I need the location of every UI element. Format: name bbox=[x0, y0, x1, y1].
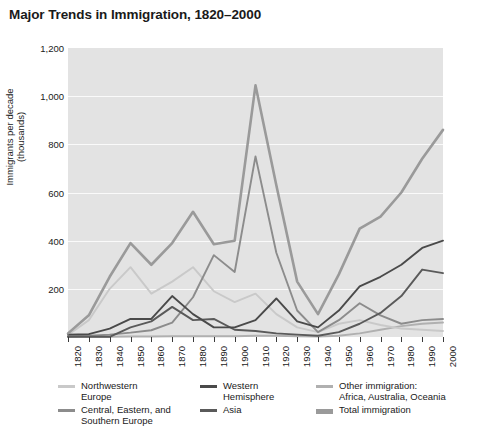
x-axis-tick bbox=[422, 337, 423, 342]
legend-swatch bbox=[58, 409, 75, 412]
x-axis-tick-label: 1930 bbox=[301, 346, 312, 367]
x-axis-tick bbox=[401, 337, 402, 342]
x-axis-tick-label: 1970 bbox=[385, 346, 396, 367]
x-axis-tick-label: 2000 bbox=[447, 346, 458, 367]
series-line bbox=[68, 267, 443, 335]
y-axis-title: Immigrants per decade(thousands) bbox=[4, 62, 26, 212]
x-axis-tick-label: 1880 bbox=[197, 346, 208, 367]
x-axis-tick-label: 1950 bbox=[343, 346, 354, 367]
series-line bbox=[68, 156, 443, 336]
legend-item[interactable]: Northwestern Europe bbox=[58, 381, 138, 402]
x-axis-tick bbox=[89, 337, 90, 342]
x-axis-tick-label: 1820 bbox=[72, 346, 83, 367]
x-axis-tick-label: 1980 bbox=[405, 346, 416, 367]
x-axis-tick-label: 1860 bbox=[155, 346, 166, 367]
x-axis-tick bbox=[339, 337, 340, 342]
x-axis-tick bbox=[381, 337, 382, 342]
x-axis-tick-label: 1900 bbox=[239, 346, 250, 367]
legend-item[interactable]: Western Hemisphere bbox=[200, 381, 274, 402]
x-axis-labels: 1820183018401850186018701880189019001910… bbox=[68, 344, 443, 378]
x-axis-tick bbox=[110, 337, 111, 342]
x-axis-tick-label: 1960 bbox=[364, 346, 375, 367]
legend-swatch bbox=[58, 385, 75, 388]
legend-swatch bbox=[200, 409, 217, 412]
legend-label: Other immigration: Africa, Australia, Oc… bbox=[339, 381, 446, 402]
x-axis-tick bbox=[318, 337, 319, 342]
y-axis-tick-label: 400 bbox=[2, 235, 64, 246]
legend-swatch bbox=[200, 385, 217, 388]
legend-item[interactable]: Total immigration bbox=[316, 405, 411, 416]
legend-item[interactable]: Central, Eastern, and Southern Europe bbox=[58, 405, 171, 426]
x-axis-tick bbox=[131, 337, 132, 342]
legend-swatch bbox=[316, 409, 333, 414]
legend-label: Northwestern Europe bbox=[81, 381, 138, 402]
x-axis-tick bbox=[68, 337, 69, 342]
legend-item[interactable]: Other immigration: Africa, Australia, Oc… bbox=[316, 381, 446, 402]
x-axis-tick-label: 1850 bbox=[135, 346, 146, 367]
plot-wrapper: 1,2001,000800600400200 Immigrants per de… bbox=[0, 0, 477, 360]
x-axis-tick bbox=[172, 337, 173, 342]
x-axis-tick bbox=[276, 337, 277, 342]
x-axis-tick-label: 1910 bbox=[260, 346, 271, 367]
legend-label: Asia bbox=[223, 405, 241, 416]
x-axis-tick bbox=[256, 337, 257, 342]
x-axis-tick-label: 1830 bbox=[93, 346, 104, 367]
legend-label: Western Hemisphere bbox=[223, 381, 274, 402]
x-axis-tick bbox=[214, 337, 215, 342]
x-axis-tick-label: 1870 bbox=[176, 346, 187, 367]
x-axis-tick-label: 1990 bbox=[426, 346, 437, 367]
x-axis-tick bbox=[443, 337, 444, 342]
y-axis-tick-label: 1,200 bbox=[2, 43, 64, 54]
legend-swatch bbox=[316, 385, 333, 388]
y-axis-tick-label: 200 bbox=[2, 283, 64, 294]
x-axis-tick bbox=[360, 337, 361, 342]
x-axis-tick bbox=[151, 337, 152, 342]
y-axis-title-line: (thousands) bbox=[15, 62, 26, 212]
y-axis-title-line: Immigrants per decade bbox=[4, 62, 15, 212]
legend-label: Central, Eastern, and Southern Europe bbox=[81, 405, 171, 426]
series-line bbox=[68, 85, 443, 333]
chart-legend: Northwestern EuropeCentral, Eastern, and… bbox=[58, 381, 458, 429]
x-axis-tick-label: 1890 bbox=[218, 346, 229, 367]
legend-label: Total immigration bbox=[339, 405, 411, 416]
data-lines-svg bbox=[68, 48, 443, 337]
x-axis-tick-label: 1920 bbox=[280, 346, 291, 367]
x-axis-tick bbox=[193, 337, 194, 342]
x-axis-tick-label: 1840 bbox=[114, 346, 125, 367]
immigration-trends-chart: Major Trends in Immigration, 1820–2000 1… bbox=[0, 0, 477, 448]
x-axis-tick bbox=[235, 337, 236, 342]
x-axis-tick bbox=[297, 337, 298, 342]
legend-item[interactable]: Asia bbox=[200, 405, 241, 416]
x-axis-tick-label: 1940 bbox=[322, 346, 333, 367]
